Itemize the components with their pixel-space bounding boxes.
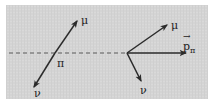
neutrino-label-left: ν bbox=[34, 87, 41, 100]
pion-label-rest: π bbox=[57, 57, 64, 70]
pion-decay-figure: μ ν π μ ν → p π bbox=[0, 0, 214, 105]
neutrino-label-right: ν bbox=[140, 84, 147, 97]
pion-momentum-symbol: p bbox=[183, 40, 190, 53]
figure-canvas: μ ν π μ ν → p π bbox=[0, 0, 214, 105]
muon-label-right: μ bbox=[171, 19, 178, 32]
pion-momentum-subscript: π bbox=[190, 46, 195, 55]
muon-label-left: μ bbox=[81, 14, 88, 27]
